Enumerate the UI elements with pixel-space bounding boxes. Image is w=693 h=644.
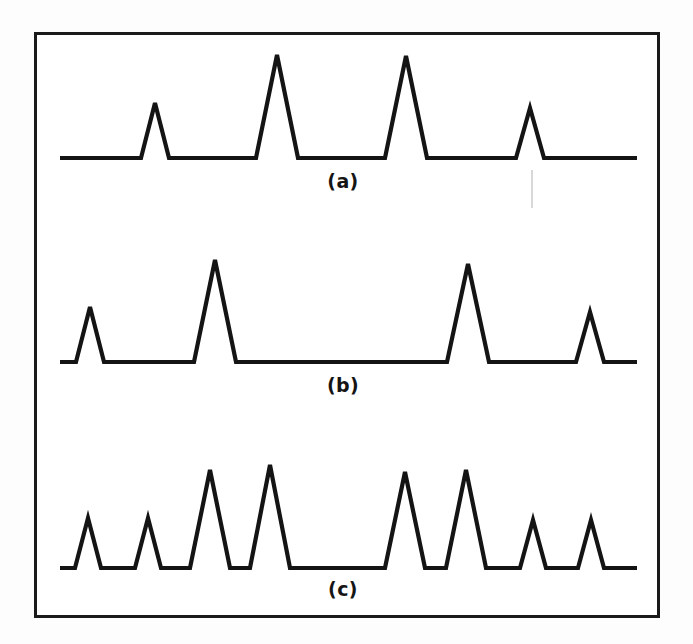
scan-speck [531,170,533,208]
panel-label-b: (b) [283,374,403,396]
panel-label-c: (c) [283,578,403,600]
waveform-path-c [60,465,637,568]
panel-label-a: (a) [283,170,403,192]
figure-root: (a) (b) (c) [0,0,693,644]
waveform-trace-c [0,0,693,644]
